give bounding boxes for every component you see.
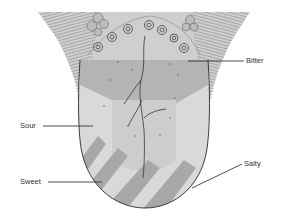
tongue-body <box>70 50 220 222</box>
tongue-taste-diagram: Bitter Sour Sweet Salty <box>0 0 289 222</box>
label-salty: Salty <box>244 160 261 168</box>
tongue-illustration <box>0 0 289 222</box>
label-sour: Sour <box>20 122 36 130</box>
label-bitter: Bitter <box>246 57 264 65</box>
label-sweet: Sweet <box>20 178 41 186</box>
